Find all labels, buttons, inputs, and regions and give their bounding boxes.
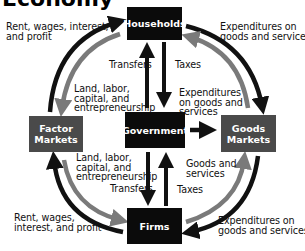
firms-label: Firms — [140, 221, 170, 232]
goods-markets-label-line1: Goods — [232, 123, 265, 134]
label-lower-taxes: Taxes — [177, 185, 203, 195]
goods-markets-label-line2: Markets — [227, 134, 270, 145]
factor-markets-label-line1: Factor — [39, 123, 73, 134]
label-lower-resources: Land, labor, capital, and entrepreneursh… — [76, 153, 157, 182]
label-gov-expenditures: Expenditures on goods and services — [179, 88, 243, 117]
government-label: Government — [122, 125, 188, 136]
label-top-right: Expenditures on goods and services — [220, 22, 305, 41]
label-lower-transfers: Transfers — [110, 184, 153, 194]
households-label: Households — [123, 18, 185, 29]
label-upper-resources: Land, labor, capital, and entrepreneursh… — [74, 84, 155, 113]
label-upper-taxes: Taxes — [175, 60, 201, 70]
label-bottom-right: Expenditures on goods and services — [218, 216, 305, 235]
factor-markets-box: Factor Markets — [29, 116, 83, 152]
label-upper-transfers: Transfers — [109, 60, 152, 70]
factor-markets-label-line2: Markets — [34, 134, 77, 145]
government-box: Government — [125, 112, 185, 148]
circular-flow-diagram: Economy Households Governme — [0, 0, 305, 251]
label-lower-goods: Goods and services — [186, 159, 236, 178]
label-top-left: Rent, wages, interest, and profit — [6, 22, 109, 41]
firms-box: Firms — [127, 208, 182, 244]
households-box: Households — [127, 7, 182, 40]
label-bottom-left: Rent, wages, interest, and profit — [14, 213, 102, 232]
goods-markets-box: Goods Markets — [221, 115, 276, 152]
